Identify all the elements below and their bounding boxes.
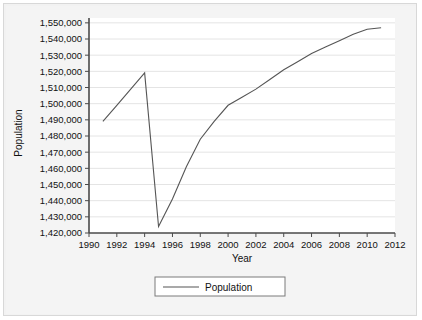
x-tick-label: 2000 — [218, 239, 239, 250]
y-axis-tick-labels: 1,420,0001,430,0001,440,0001,450,0001,46… — [40, 17, 82, 238]
y-tick-label: 1,480,000 — [40, 130, 82, 141]
y-tick-label: 1,540,000 — [40, 33, 82, 44]
legend-label-population: Population — [205, 282, 252, 293]
y-tick-label: 1,530,000 — [40, 50, 82, 61]
y-tick-label: 1,520,000 — [40, 66, 82, 77]
plot-svg: 1,420,0001,430,0001,440,0001,450,0001,46… — [0, 0, 422, 320]
y-tick-label: 1,430,000 — [40, 211, 82, 222]
x-tick-label: 2002 — [245, 239, 266, 250]
y-tick-label: 1,440,000 — [40, 195, 82, 206]
x-tick-label: 2006 — [301, 239, 322, 250]
x-tick-label: 2012 — [384, 239, 405, 250]
x-tick-label: 1998 — [190, 239, 211, 250]
y-axis-title: Population — [13, 109, 24, 156]
x-tick-label: 2004 — [273, 239, 294, 250]
y-tick-label: 1,450,000 — [40, 179, 82, 190]
y-tick-label: 1,550,000 — [40, 17, 82, 28]
y-tick-label: 1,460,000 — [40, 163, 82, 174]
x-tick-label: 2008 — [329, 239, 350, 250]
x-tick-label: 1994 — [134, 239, 155, 250]
x-axis-tick-labels: 1990199219941996199820002002200420062008… — [78, 239, 405, 250]
x-tick-label: 1990 — [78, 239, 99, 250]
x-tick-label: 2010 — [357, 239, 378, 250]
x-tick-label: 1992 — [106, 239, 127, 250]
x-tick-label: 1996 — [162, 239, 183, 250]
x-axis-title: Year — [232, 253, 253, 264]
y-tick-label: 1,500,000 — [40, 98, 82, 109]
legend: Population — [155, 277, 285, 296]
y-tick-label: 1,470,000 — [40, 147, 82, 158]
y-tick-label: 1,420,000 — [40, 227, 82, 238]
y-tick-label: 1,510,000 — [40, 82, 82, 93]
population-line-chart: 1,420,0001,430,0001,440,0001,450,0001,46… — [0, 0, 422, 320]
y-tick-label: 1,490,000 — [40, 114, 82, 125]
